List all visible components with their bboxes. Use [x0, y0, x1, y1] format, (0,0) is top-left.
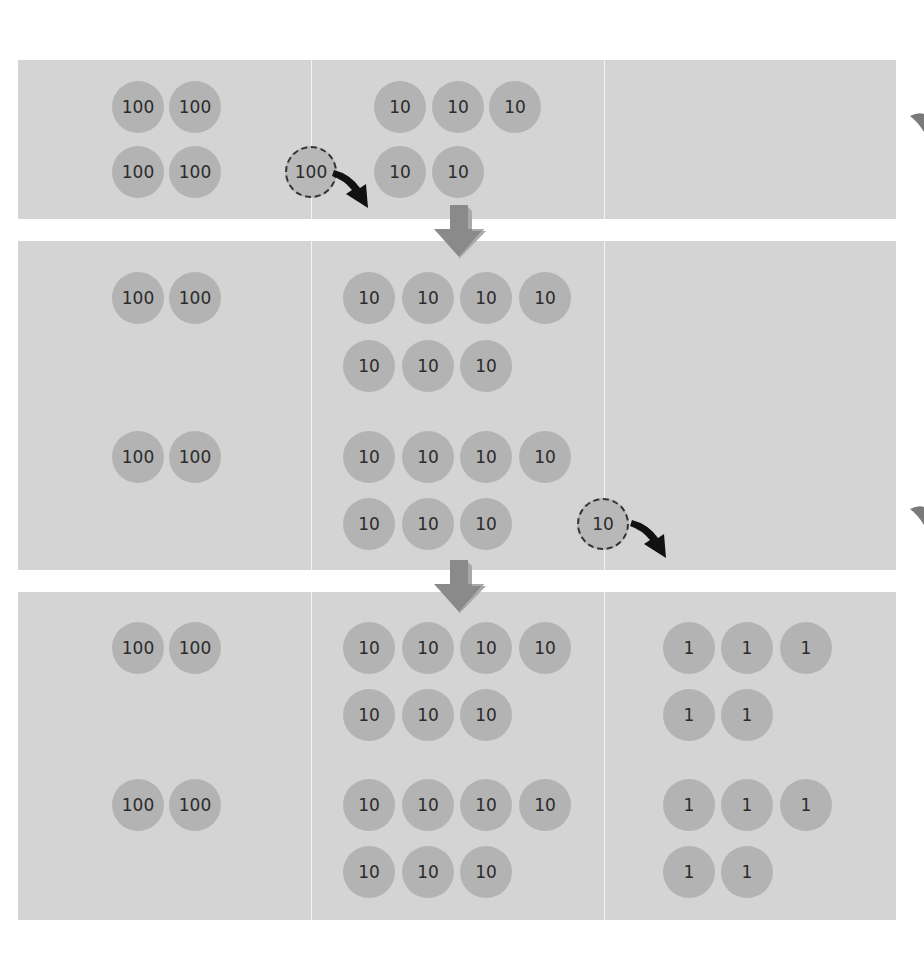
tens-disc: 10 — [343, 622, 395, 674]
tens-disc: 10 — [402, 340, 454, 392]
tens-disc: 10 — [374, 81, 426, 133]
tens-disc: 10 — [343, 689, 395, 741]
hundreds-disc: 100 — [169, 622, 221, 674]
tens-disc: 10 — [343, 498, 395, 550]
tens-disc: 10 — [402, 431, 454, 483]
hundreds-disc: 100 — [169, 81, 221, 133]
hundreds-disc: 100 — [112, 779, 164, 831]
tens-disc: 10 — [519, 431, 571, 483]
tens-disc: 10 — [460, 272, 512, 324]
tens-disc: 10 — [460, 622, 512, 674]
tens-disc: 10 — [402, 498, 454, 550]
ones-disc: 1 — [721, 689, 773, 741]
hundreds-disc: 100 — [112, 272, 164, 324]
hundreds-disc: 100 — [169, 146, 221, 198]
hundreds-disc: 100 — [112, 146, 164, 198]
tens-disc: 10 — [402, 689, 454, 741]
tens-disc: 10 — [519, 779, 571, 831]
clipped-arrow-fragment-icon — [910, 505, 924, 525]
tens-disc: 10 — [460, 431, 512, 483]
down-arrow-icon — [432, 205, 486, 259]
tens-disc: 10 — [460, 846, 512, 898]
tens-disc: 10 — [402, 622, 454, 674]
tens-disc: 10 — [402, 779, 454, 831]
tens-disc: 10 — [460, 779, 512, 831]
ones-disc: 1 — [663, 622, 715, 674]
down-arrow-icon — [432, 560, 486, 614]
ones-disc: 1 — [721, 846, 773, 898]
ones-disc: 1 — [663, 779, 715, 831]
tens-disc: 10 — [343, 779, 395, 831]
tens-disc: 10 — [489, 81, 541, 133]
hundreds-disc: 100 — [169, 272, 221, 324]
tens-disc: 10 — [460, 498, 512, 550]
ones-disc: 1 — [780, 622, 832, 674]
clipped-arrow-fragment-icon — [910, 112, 924, 132]
hundreds-disc: 100 — [112, 81, 164, 133]
tens-disc: 10 — [460, 689, 512, 741]
ones-disc: 1 — [663, 689, 715, 741]
hundreds-disc: 100 — [112, 431, 164, 483]
ones-disc: 1 — [780, 779, 832, 831]
tens-disc: 10 — [402, 846, 454, 898]
tens-disc: 10 — [519, 272, 571, 324]
hundreds-disc: 100 — [112, 622, 164, 674]
tens-disc: 10 — [402, 272, 454, 324]
hundreds-disc: 100 — [169, 431, 221, 483]
tens-disc: 10 — [519, 622, 571, 674]
tens-disc: 10 — [432, 81, 484, 133]
tens-disc: 10 — [374, 146, 426, 198]
tens-disc: 10 — [343, 272, 395, 324]
tens-disc: 10 — [460, 340, 512, 392]
hundreds-disc: 100 — [169, 779, 221, 831]
column-divider — [604, 592, 605, 920]
regroup-curved-arrow-icon — [628, 520, 672, 562]
regroup-curved-arrow-icon — [330, 170, 374, 212]
column-divider — [604, 60, 605, 219]
tens-disc: 10 — [343, 340, 395, 392]
tens-disc: 10 — [432, 146, 484, 198]
ones-disc: 1 — [663, 846, 715, 898]
ones-disc: 1 — [721, 622, 773, 674]
ones-disc: 1 — [721, 779, 773, 831]
column-divider — [311, 241, 312, 570]
tens-disc: 10 — [343, 846, 395, 898]
tens-disc: 10 — [343, 431, 395, 483]
regroup-tens-disc: 10 — [577, 498, 629, 550]
column-divider — [311, 592, 312, 920]
